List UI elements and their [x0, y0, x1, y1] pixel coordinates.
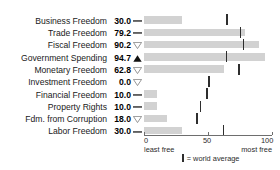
- row-trend-indicator: [133, 27, 143, 39]
- chart-row: Trade Freedom79.2: [0, 27, 280, 39]
- row-label: Labor Freedom: [0, 125, 107, 137]
- row-label: Government Spending: [0, 52, 107, 64]
- row-label: Trade Freedom: [0, 27, 107, 39]
- economic-freedom-component-chart: INDEX OF ECONOMIC FREEDOM COMPONENT FREE…: [0, 0, 280, 170]
- row-value: 94.7: [107, 52, 131, 64]
- down-triangle-icon: [133, 67, 142, 74]
- row-trend-indicator: [133, 39, 143, 51]
- down-triangle-icon: [133, 42, 142, 49]
- row-trend-indicator: [133, 52, 143, 64]
- up-triangle-icon: [133, 55, 142, 62]
- down-triangle-icon: [133, 116, 142, 123]
- row-label: Business Freedom: [0, 15, 107, 27]
- row-value: 10.0: [107, 89, 131, 101]
- row-trend-indicator: [133, 89, 143, 101]
- row-trend-indicator: [133, 125, 143, 137]
- axis-tick: [208, 132, 209, 135]
- flat-dash-icon: [133, 18, 142, 24]
- flat-dash-icon: [133, 104, 142, 110]
- row-label: Monetary Freedom: [0, 64, 107, 76]
- row-value: 79.2: [107, 27, 131, 39]
- row-label: Fdm. from Corruption: [0, 113, 107, 125]
- row-value: 0.0: [107, 76, 131, 88]
- chart-row: Business Freedom30.0: [0, 15, 280, 27]
- flat-dash-icon: [133, 92, 142, 98]
- row-label: Investment Freedom: [0, 76, 107, 88]
- chart-row: Property Rights10.0: [0, 101, 280, 113]
- row-trend-indicator: [133, 64, 143, 76]
- axis-tick-label: 100: [261, 136, 273, 145]
- down-triangle-icon: [133, 79, 142, 86]
- chart-row: Fiscal Freedom90.2: [0, 39, 280, 51]
- row-label: Property Rights: [0, 101, 107, 113]
- row-value: 10.0: [107, 101, 131, 113]
- row-trend-indicator: [133, 15, 143, 27]
- axis-tick: [272, 132, 273, 135]
- chart-row: Fdm. from Corruption18.0: [0, 113, 280, 125]
- flat-dash-icon: [133, 129, 142, 135]
- row-value: 62.8: [107, 64, 131, 76]
- chart-row: Investment Freedom0.0: [0, 76, 280, 88]
- row-value: 30.0: [107, 15, 131, 27]
- row-value: 18.0: [107, 113, 131, 125]
- row-label: Financial Freedom: [0, 89, 107, 101]
- axis-least-free-label: least free: [144, 145, 174, 154]
- axis-tick-label: 0: [144, 136, 148, 145]
- row-value: 30.0: [107, 125, 131, 137]
- chart-row: Monetary Freedom62.8: [0, 64, 280, 76]
- row-value: 90.2: [107, 39, 131, 51]
- flat-dash-icon: [133, 30, 142, 36]
- row-label: Fiscal Freedom: [0, 39, 107, 51]
- chart-row: Government Spending94.7: [0, 52, 280, 64]
- legend-label: = world average: [187, 154, 240, 163]
- world-average-marker-icon: [182, 154, 184, 162]
- row-trend-indicator: [133, 113, 143, 125]
- row-trend-indicator: [133, 101, 143, 113]
- axis-most-free-label: most free: [241, 145, 272, 154]
- chart-row: Financial Freedom10.0: [0, 89, 280, 101]
- axis-tick-label: 50: [203, 136, 211, 145]
- axis-tick: [144, 132, 145, 135]
- legend: = world average: [182, 154, 239, 164]
- row-trend-indicator: [133, 76, 143, 88]
